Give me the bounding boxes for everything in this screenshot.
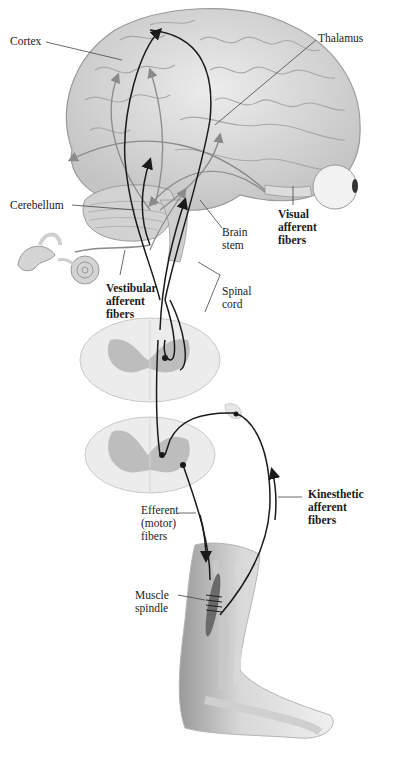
label-cortex: Cortex bbox=[10, 35, 41, 48]
label-thalamus: Thalamus bbox=[318, 32, 363, 45]
label-spinal-cord: Spinal cord bbox=[222, 285, 251, 311]
label-cerebellum: Cerebellum bbox=[10, 199, 64, 212]
spinal-cord-section-lower bbox=[85, 417, 215, 493]
diagram-artwork bbox=[0, 0, 394, 757]
spinal-cord-section-upper bbox=[80, 318, 220, 402]
label-vestibular-afferent-fibers: Vestibular afferent fibers bbox=[106, 282, 157, 321]
label-visual-afferent-fibers: Visual afferent fibers bbox=[278, 208, 317, 247]
vestibular-nerve bbox=[75, 245, 150, 252]
afferent-direction-arrow bbox=[272, 470, 276, 520]
leg bbox=[179, 543, 333, 738]
label-kinesthetic-afferent-fibers: Kinesthetic afferent fibers bbox=[308, 488, 364, 527]
label-muscle-spindle: Muscle spindle bbox=[135, 589, 169, 615]
dorsal-root-ganglion bbox=[225, 404, 241, 419]
inner-ear bbox=[18, 234, 99, 284]
label-brain-stem: Brain stem bbox=[222, 226, 248, 252]
label-efferent-motor-fibers: Efferent (motor) fibers bbox=[141, 504, 178, 543]
